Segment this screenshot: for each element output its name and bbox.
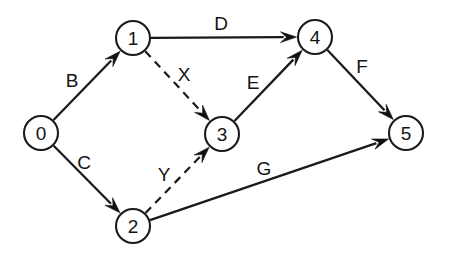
- edge-g-line: [150, 143, 376, 220]
- node-1[interactable]: 1: [116, 21, 150, 55]
- node-4-label: 4: [310, 27, 321, 48]
- node-0[interactable]: 0: [24, 116, 58, 150]
- edge-label-y: Y: [158, 164, 171, 185]
- node-0-label: 0: [36, 123, 47, 144]
- edge-label-b: B: [66, 70, 79, 91]
- nodes-layer: 012345: [24, 20, 423, 243]
- network-diagram-figure: 012345 BCDXYEFG: [0, 0, 451, 258]
- node-2[interactable]: 2: [116, 209, 150, 243]
- node-3[interactable]: 3: [205, 117, 239, 151]
- node-5-label: 5: [401, 123, 412, 144]
- edge-d-line: [151, 37, 284, 38]
- network-diagram-canvas: 012345 BCDXYEFG: [0, 0, 451, 258]
- edge-e-line: [234, 60, 293, 121]
- edge-label-c: C: [77, 152, 91, 173]
- edge-label-x: X: [178, 64, 191, 85]
- node-2-label: 2: [128, 216, 139, 237]
- edge-label-e: E: [247, 72, 260, 93]
- edge-label-g: G: [257, 158, 272, 179]
- edge-label-d: D: [214, 13, 228, 34]
- edge-label-f: F: [356, 56, 368, 77]
- node-5[interactable]: 5: [389, 116, 423, 150]
- node-1-label: 1: [128, 28, 139, 49]
- node-4[interactable]: 4: [298, 20, 332, 54]
- edge-b-line: [54, 60, 112, 120]
- edge-y-line: [146, 157, 201, 214]
- edge-x-line: [145, 51, 200, 111]
- node-3-label: 3: [217, 124, 228, 145]
